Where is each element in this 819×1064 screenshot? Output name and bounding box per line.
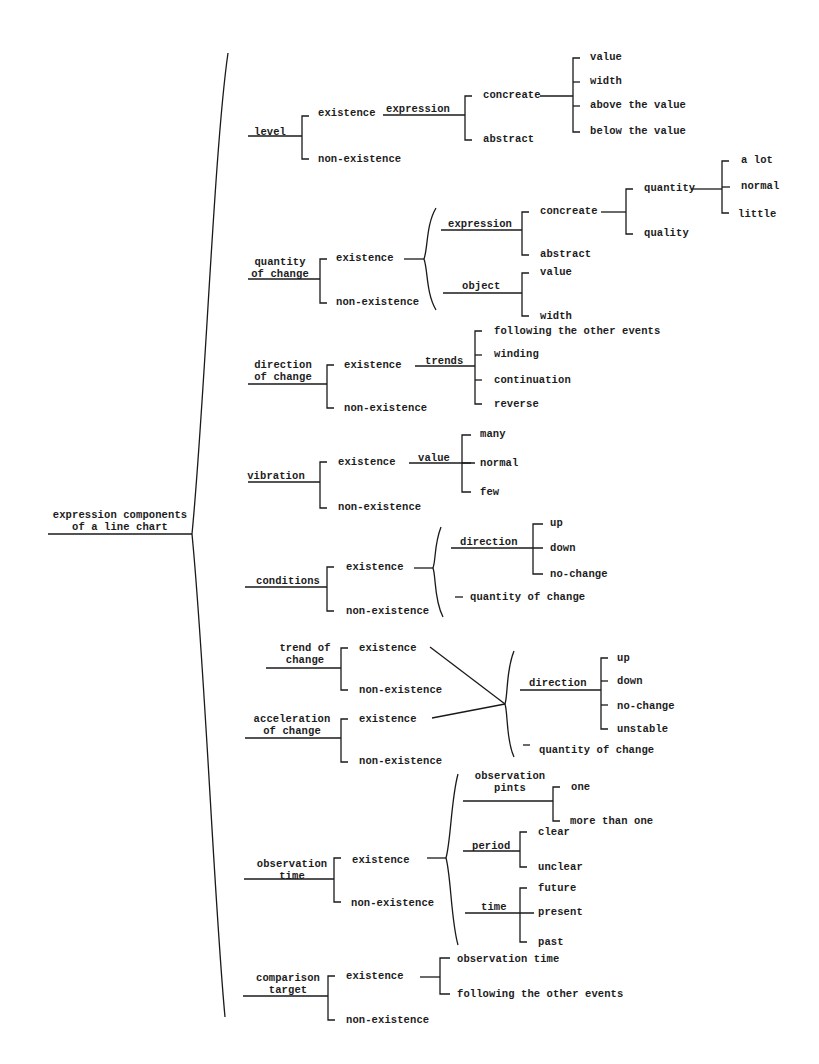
- node-cond-exist: existence: [346, 561, 404, 573]
- node-doc-winding: winding: [494, 348, 539, 360]
- node-ot: observation time: [257, 858, 327, 882]
- node-qoc-exist: existence: [336, 252, 394, 264]
- node-level-abstract: abstract: [483, 133, 534, 145]
- node-level-exist: existence: [318, 107, 376, 119]
- node-toc-exist: existence: [359, 642, 417, 654]
- node-vib-nonexist: non-existence: [338, 501, 421, 513]
- node-tac-unstable: unstable: [617, 723, 668, 735]
- node-ot-nonexist: non-existence: [351, 897, 434, 909]
- node-cond-direction: direction: [460, 536, 518, 548]
- node-ct: comparison target: [256, 972, 320, 996]
- node-cond-up: up: [550, 517, 563, 529]
- node-qoc-alot: a lot: [741, 154, 773, 166]
- node-vib-normal: normal: [480, 457, 518, 469]
- node-ct-nonexist: non-existence: [346, 1014, 429, 1026]
- node-level-value: value: [590, 51, 622, 63]
- node-doc-trends: trends: [425, 355, 463, 367]
- node-level-concreate: concreate: [483, 89, 541, 101]
- node-qoc-object: object: [462, 280, 500, 292]
- node-vib-value: value: [418, 452, 450, 464]
- node-doc-nonexist: non-existence: [344, 402, 427, 414]
- node-cond-nochange: no-change: [550, 568, 608, 580]
- root-node-label: expression components of a line chart: [53, 509, 187, 533]
- node-cond-qoc: quantity of change: [470, 591, 585, 603]
- node-aoc-exist: existence: [359, 713, 417, 725]
- node-toc-nonexist: non-existence: [359, 684, 442, 696]
- node-qoc-quantity: quantity: [644, 182, 695, 194]
- node-ot-exist: existence: [352, 854, 410, 866]
- node-tac-nochange: no-change: [617, 700, 675, 712]
- node-level-width: width: [590, 75, 622, 87]
- node-ot-unclear: unclear: [538, 861, 583, 873]
- node-ot-past: past: [538, 936, 564, 948]
- node-ot-period: period: [472, 840, 510, 852]
- node-level-above: above the value: [590, 99, 686, 111]
- node-level: level: [254, 126, 286, 138]
- node-cond-down: down: [550, 542, 576, 554]
- node-ot-clear: clear: [538, 826, 570, 838]
- node-ot-time: time: [481, 901, 507, 913]
- node-level-nonexist: non-existence: [318, 153, 401, 165]
- node-tac-down: down: [617, 675, 643, 687]
- node-qoc-concreate: concreate: [540, 205, 598, 217]
- node-ct-exist: existence: [346, 970, 404, 982]
- node-qoc-value: value: [540, 266, 572, 278]
- node-vib-few: few: [480, 486, 499, 498]
- node-doc-reverse: reverse: [494, 398, 539, 410]
- node-qoc-width: width: [540, 310, 572, 322]
- node-aoc-nonexist: non-existence: [359, 755, 442, 767]
- node-ot-future: future: [538, 882, 576, 894]
- node-toc: trend of change: [279, 642, 330, 666]
- node-qoc-nonexist: non-existence: [336, 296, 419, 308]
- node-cond-nonexist: non-existence: [346, 605, 429, 617]
- node-tac-qoc: quantity of change: [539, 744, 654, 756]
- node-tac-up: up: [617, 652, 630, 664]
- node-level-below: below the value: [590, 125, 686, 137]
- node-qoc-quality: quality: [644, 227, 689, 239]
- node-ot-one: one: [571, 781, 590, 793]
- node-ct-obstime: observation time: [457, 953, 559, 965]
- node-doc-continuation: continuation: [494, 374, 571, 386]
- node-ot-present: present: [538, 906, 583, 918]
- node-vib-exist: existence: [338, 456, 396, 468]
- node-qoc: quantity of change: [251, 256, 309, 280]
- node-vib: vibration: [247, 470, 305, 482]
- node-ot-morethanone: more than one: [570, 815, 653, 827]
- node-qoc-abstract: abstract: [540, 248, 591, 260]
- tree-diagram: expression components of a line chartlev…: [0, 0, 819, 1064]
- node-aoc: acceleration of change: [254, 713, 331, 737]
- node-level-expression: expression: [386, 103, 450, 115]
- node-qoc-little: little: [738, 208, 776, 220]
- node-ct-following: following the other events: [457, 988, 623, 1000]
- node-vib-many: many: [480, 428, 506, 440]
- node-qoc-normal: normal: [741, 180, 779, 192]
- node-tac-direction: direction: [529, 677, 587, 689]
- node-doc-exist: existence: [344, 359, 402, 371]
- node-ot-obspints: observation pints: [475, 770, 545, 794]
- node-doc: direction of change: [254, 359, 312, 383]
- node-doc-following: following the other events: [494, 325, 660, 337]
- node-cond: conditions: [256, 575, 320, 587]
- node-qoc-expression: expression: [448, 218, 512, 230]
